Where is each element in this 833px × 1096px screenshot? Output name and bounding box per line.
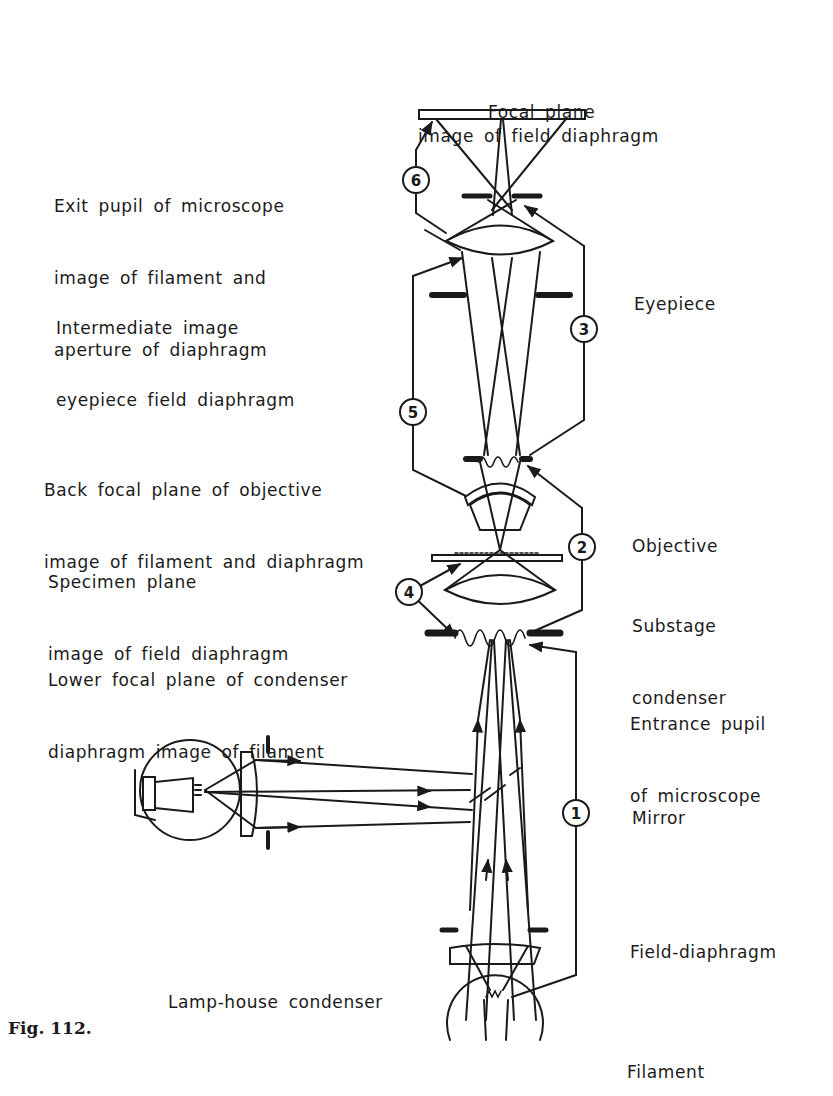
label-lamp-house-condenser-line1: Lamp-house condenser [168, 990, 383, 1014]
label-intermediate-image: Intermediate image eyepiece field diaphr… [56, 268, 295, 436]
mirror [470, 768, 520, 802]
label-exit-pupil-line1: Exit pupil of microscope [54, 194, 285, 218]
label-mirror: Mirror [632, 758, 686, 854]
label-entrance-pupil-line1: Entrance pupil [630, 712, 766, 736]
label-mirror-line1: Mirror [632, 806, 686, 830]
label-objective-line1: Objective [632, 534, 718, 558]
marker-4-label: 4 [404, 584, 414, 602]
marker-1-label: 1 [571, 805, 581, 823]
label-filament: Filament [627, 1012, 705, 1096]
label-intermediate-image-line2: eyepiece field diaphragm [56, 388, 295, 412]
focal-plane-subtitle: image of field diaphragm [418, 76, 659, 172]
label-specimen-plane-line1: Specimen plane [48, 570, 289, 594]
label-lower-focal-plane: Lower focal plane of condenser diaphragm… [48, 620, 348, 788]
focal-plane-title-line2: image of field diaphragm [418, 124, 659, 148]
marker-5-label: 5 [408, 404, 418, 422]
label-eyepiece-line1: Eyepiece [634, 292, 716, 316]
eyepiece-lens [425, 200, 553, 255]
label-lower-focal-plane-line1: Lower focal plane of condenser [48, 668, 348, 692]
marker-2-label: 2 [577, 539, 587, 557]
label-eyepiece: Eyepiece [634, 244, 716, 340]
figure-caption: Fig. 112. [8, 1018, 92, 1038]
specimen-slide [432, 553, 562, 561]
label-filament-line1: Filament [627, 1060, 705, 1084]
label-back-focal-plane-line1: Back focal plane of objective [44, 478, 364, 502]
ray-bundle-upper [462, 252, 540, 455]
label-substage-condenser-line1: Substage [632, 614, 726, 638]
label-field-diaphragm: Field-diaphragm [630, 892, 777, 988]
marker-6-label: 6 [411, 172, 421, 190]
objective-lens [465, 462, 535, 550]
bottom-lamp-bulb [447, 946, 543, 1040]
label-field-diaphragm-line1: Field-diaphragm [630, 940, 777, 964]
label-lower-focal-plane-line2: diaphragm image of filament [48, 740, 348, 764]
label-intermediate-image-line1: Intermediate image [56, 316, 295, 340]
marker-3-label: 3 [579, 321, 589, 339]
label-lamp-house-condenser: Lamp-house condenser [168, 942, 383, 1038]
